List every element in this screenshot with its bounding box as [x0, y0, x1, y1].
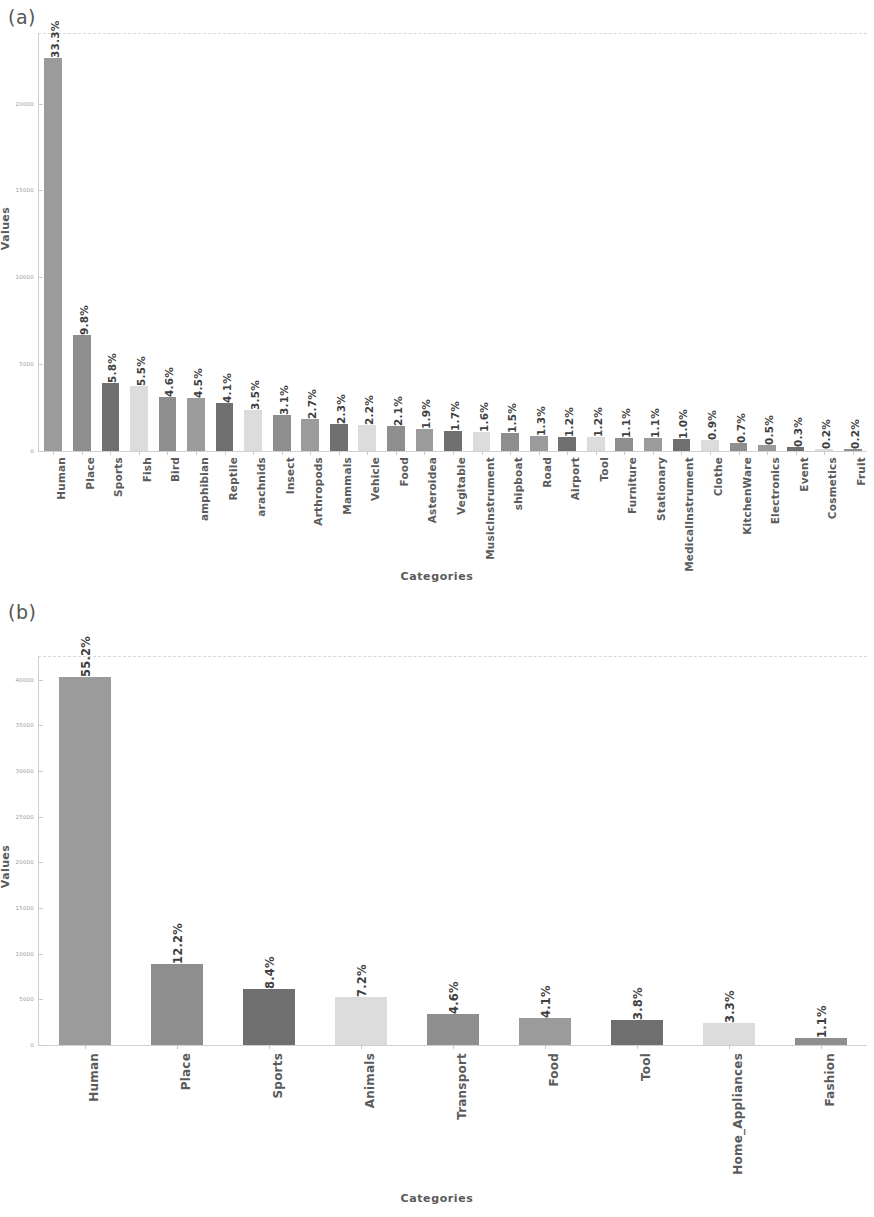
bar-group: Mammals2.3% — [325, 34, 354, 451]
bar-value-label: 4.5% — [192, 368, 204, 398]
y-tick-label: 15000 — [16, 905, 40, 911]
panel-b-tag: (b) — [8, 601, 36, 623]
bar-group: Reptile4.1% — [210, 34, 239, 451]
x-tick-label: Arthropods — [312, 457, 324, 526]
bar[interactable]: 3.1% — [273, 415, 291, 451]
y-tick-label: 40000 — [16, 677, 40, 683]
y-tick-label: 0 — [30, 1042, 39, 1048]
bar[interactable]: 3.5% — [244, 410, 262, 451]
bar[interactable]: 5.5% — [130, 386, 148, 451]
x-tick-mark — [482, 451, 483, 455]
bar[interactable]: 0.2% — [815, 449, 833, 451]
x-tick-label: MedicalInstrument — [683, 457, 695, 572]
bar[interactable]: 1.0% — [673, 439, 691, 451]
x-tick-label: Stationary — [654, 457, 666, 521]
bar-value-label: 1.1% — [815, 1005, 829, 1038]
bar-value-label: 9.8% — [77, 306, 89, 336]
bar[interactable]: 33.3% — [44, 58, 62, 451]
y-tick-label: 20000 — [16, 101, 40, 107]
bar[interactable]: 4.5% — [187, 398, 205, 451]
x-tick-mark — [539, 451, 540, 455]
y-tick-label: 5000 — [19, 361, 39, 367]
x-tick-label: Event — [797, 457, 809, 492]
x-tick-label: Food — [397, 457, 409, 487]
bar-group: amphibian4.5% — [182, 34, 211, 451]
bar[interactable]: 2.2% — [358, 425, 376, 451]
bar-group: Asteroidea1.9% — [410, 34, 439, 451]
bar-group: Airport1.2% — [553, 34, 582, 451]
bar[interactable]: 1.6% — [473, 432, 491, 451]
x-tick-label: Place — [83, 457, 95, 490]
bar-value-label: 1.6% — [477, 402, 489, 432]
bar-value-label: 1.0% — [677, 409, 689, 439]
x-tick-mark — [282, 451, 283, 455]
bar-group: Human55.2% — [39, 657, 131, 1045]
bar[interactable]: 55.2% — [59, 677, 111, 1045]
x-tick-label: Fish — [140, 457, 152, 482]
bar-value-label: 2.1% — [391, 396, 403, 426]
bar[interactable]: 7.2% — [335, 997, 387, 1045]
bar-group: Insect3.1% — [267, 34, 296, 451]
bar[interactable]: 0.2% — [844, 449, 862, 451]
bar-value-label: 4.6% — [163, 367, 175, 397]
bar-value-label: 5.5% — [134, 356, 146, 386]
bar[interactable]: 3.3% — [703, 1023, 755, 1045]
x-tick-label: Reptile — [226, 457, 238, 500]
bar[interactable]: 1.3% — [530, 436, 548, 451]
bar[interactable]: 12.2% — [151, 964, 203, 1045]
x-tick-mark — [624, 451, 625, 455]
bar[interactable]: 1.7% — [444, 431, 462, 451]
bar[interactable]: 8.4% — [243, 989, 295, 1045]
bar[interactable]: 2.3% — [330, 424, 348, 451]
bar-value-label: 1.3% — [534, 406, 546, 436]
x-tick-label: Animals — [363, 1053, 377, 1108]
bar[interactable]: 1.1% — [644, 438, 662, 451]
x-tick-label: Sports — [112, 457, 124, 497]
bar[interactable]: 2.1% — [387, 426, 405, 451]
y-tick-label: 10000 — [16, 951, 40, 957]
x-tick-label: Road — [540, 457, 552, 488]
bar-group: Road1.3% — [524, 34, 553, 451]
x-tick-mark — [453, 451, 454, 455]
bar[interactable]: 5.8% — [102, 383, 120, 451]
bar[interactable]: 3.8% — [611, 1020, 663, 1045]
bar[interactable]: 1.2% — [558, 437, 576, 451]
x-tick-mark — [269, 1045, 270, 1049]
bar[interactable]: 1.5% — [501, 433, 519, 451]
x-tick-mark — [853, 451, 854, 455]
bar-value-label: 0.2% — [820, 419, 832, 449]
bar[interactable]: 4.1% — [216, 403, 234, 451]
bar-value-label: 33.3% — [49, 21, 61, 58]
x-tick-mark — [85, 1045, 86, 1049]
bar[interactable]: 1.9% — [416, 429, 434, 451]
x-tick-mark — [339, 451, 340, 455]
bar[interactable]: 1.1% — [795, 1038, 847, 1045]
x-tick-mark — [821, 1045, 822, 1049]
x-tick-label: Fruit — [854, 457, 866, 486]
bar[interactable]: 0.5% — [758, 445, 776, 451]
panel-b-bars: Human55.2%Place12.2%Sports8.4%Animals7.2… — [39, 657, 867, 1045]
bar-group: Event0.3% — [781, 34, 810, 451]
bar[interactable]: 0.9% — [701, 440, 719, 451]
x-tick-mark — [510, 451, 511, 455]
bar[interactable]: 2.7% — [301, 419, 319, 451]
bar-value-label: 0.9% — [706, 410, 718, 440]
y-tick-label: 10000 — [16, 274, 40, 280]
x-tick-mark — [361, 1045, 362, 1049]
bar-group: Food4.1% — [499, 657, 591, 1045]
bar[interactable]: 4.6% — [159, 397, 177, 451]
bar[interactable]: 1.1% — [615, 438, 633, 451]
bar[interactable]: 4.6% — [427, 1014, 479, 1045]
x-tick-mark — [167, 451, 168, 455]
bar-value-label: 3.1% — [277, 385, 289, 415]
bar[interactable]: 4.1% — [519, 1018, 571, 1045]
bar[interactable]: 9.8% — [73, 335, 91, 451]
panel-a-tag: (a) — [8, 6, 36, 28]
x-tick-label: Tool — [639, 1053, 653, 1081]
x-tick-label: Food — [547, 1053, 561, 1087]
y-tick-label: 15000 — [16, 187, 40, 193]
bar[interactable]: 0.7% — [730, 443, 748, 451]
bar[interactable]: 0.3% — [787, 447, 805, 451]
x-tick-label: Transport — [455, 1053, 469, 1120]
bar[interactable]: 1.2% — [587, 437, 605, 451]
